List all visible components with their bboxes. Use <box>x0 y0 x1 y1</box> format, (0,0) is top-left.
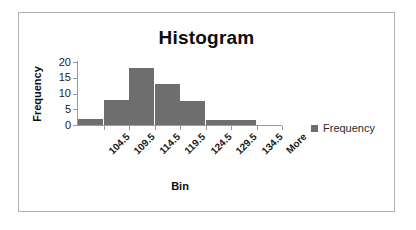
x-tick-label: 119.5 <box>183 131 208 156</box>
bar-119-5[interactable] <box>155 84 180 125</box>
x-tick-mark <box>282 126 283 130</box>
chart-legend: Frequency <box>311 122 375 134</box>
x-tick-mark <box>206 126 207 130</box>
x-tick-label: 129.5 <box>234 131 259 156</box>
x-tick-label: 134.5 <box>259 131 284 156</box>
x-tick-label: 109.5 <box>132 131 157 156</box>
plot-area <box>78 62 282 125</box>
y-axis-tick-labels: 20151050 <box>50 0 71 230</box>
y-tick-mark <box>73 109 77 110</box>
x-tick-mark <box>180 126 181 130</box>
x-tick-label: 114.5 <box>157 131 182 156</box>
bar-114-5[interactable] <box>129 68 154 125</box>
y-tick-mark <box>73 62 77 63</box>
x-tick-mark <box>129 126 130 130</box>
x-axis-title: Bin <box>78 180 282 192</box>
y-tick-label: 5 <box>50 104 71 115</box>
bar-109-5[interactable] <box>104 100 129 125</box>
y-tick-label: 10 <box>50 88 71 99</box>
y-axis-title-label: Frequency <box>31 66 43 122</box>
chart-title: Histogram <box>19 27 394 49</box>
x-tick-label: 104.5 <box>106 131 131 156</box>
y-tick-mark <box>73 125 77 126</box>
y-tick-mark <box>73 94 77 95</box>
legend-swatch-frequency <box>311 125 318 132</box>
y-tick-label: 15 <box>50 72 71 83</box>
x-tick-label: 124.5 <box>208 131 233 156</box>
y-tick-mark <box>73 78 77 79</box>
legend-label-frequency: Frequency <box>323 122 375 134</box>
y-axis-title: Frequency <box>30 62 44 126</box>
x-tick-mark <box>155 126 156 130</box>
bar-129-5[interactable] <box>206 120 231 125</box>
x-tick-mark <box>257 126 258 130</box>
x-tick-mark <box>104 126 105 130</box>
bar-134-5[interactable] <box>231 120 256 125</box>
x-axis-tick-labels: 104.5109.5114.5119.5124.5129.5134.5More <box>78 131 282 177</box>
bar-124-5[interactable] <box>180 101 205 125</box>
bar-104-5[interactable] <box>78 119 103 125</box>
x-tick-mark <box>231 126 232 130</box>
y-tick-label: 0 <box>50 120 71 131</box>
y-tick-label: 20 <box>50 57 71 68</box>
